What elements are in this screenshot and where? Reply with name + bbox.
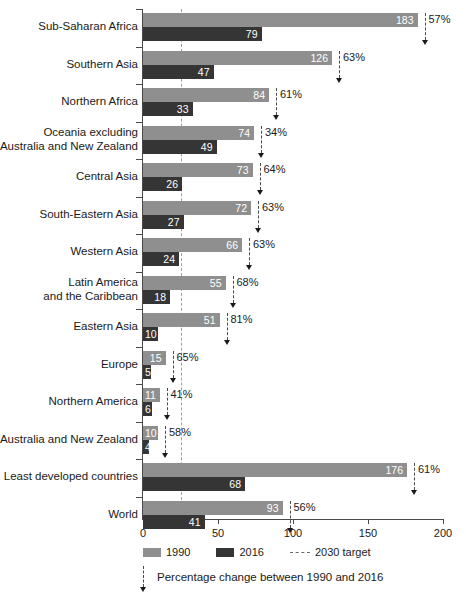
y-axis-tick <box>136 272 142 273</box>
percent-change-label: 63% <box>262 201 284 213</box>
bar-value-label: 72 <box>235 201 247 215</box>
percent-change-label: 56% <box>294 501 316 513</box>
y-axis-tick <box>136 459 142 460</box>
percent-change-marker <box>167 388 168 415</box>
bar-value-label: 176 <box>385 463 403 477</box>
bar-1990: 84 <box>143 88 269 102</box>
plot-area: 050100150200 Sub-Saharan Africa1837957%S… <box>0 0 466 520</box>
bar-value-label: 74 <box>238 126 250 140</box>
legend-label-2016: 2016 <box>239 546 263 558</box>
chart-row: Latin America and the Caribbean551868% <box>0 275 466 313</box>
bar-2016: 49 <box>143 140 217 154</box>
percent-change-label: 58% <box>169 426 191 438</box>
percent-change-arrow-icon <box>287 528 293 533</box>
percent-change-label: 63% <box>343 51 365 63</box>
bar-1990: 66 <box>143 238 242 252</box>
category-label: Western Asia <box>0 244 138 258</box>
percent-change-arrow-icon <box>258 153 264 158</box>
percent-change-marker <box>258 201 259 228</box>
bar-value-label: 4 <box>145 440 151 454</box>
category-label: Latin America and the Caribbean <box>0 275 138 303</box>
category-label: Australia and New Zealand <box>0 432 138 446</box>
percent-change-marker <box>260 163 261 190</box>
bar-value-label: 183 <box>396 13 414 27</box>
percent-change-marker <box>339 51 340 78</box>
bar-value-label: 15 <box>150 351 162 365</box>
category-label: South-Eastern Asia <box>0 207 138 221</box>
chart-row: Western Asia662463% <box>0 237 466 275</box>
bar-value-label: 49 <box>201 140 213 154</box>
bar-2016: 33 <box>143 102 193 116</box>
chart-row: Southern Asia1264763% <box>0 50 466 88</box>
bar-1990: 93 <box>143 501 283 515</box>
bar-value-label: 84 <box>253 88 265 102</box>
legend-label-1990: 1990 <box>166 546 190 558</box>
y-axis-tick <box>136 84 142 85</box>
y-axis-tick <box>136 422 142 423</box>
bar-value-label: 10 <box>145 327 157 341</box>
bar-value-label: 51 <box>204 313 216 327</box>
bar-2016: 18 <box>143 290 170 304</box>
bar-2016: 41 <box>143 515 205 529</box>
category-label: Northern America <box>0 394 138 408</box>
legend-item-1990: 1990 <box>143 546 190 558</box>
legend-swatch-2016 <box>216 548 234 557</box>
bar-2016: 79 <box>143 27 262 41</box>
bar-value-label: 27 <box>168 215 180 229</box>
bar-1990: 126 <box>143 51 332 65</box>
percent-change-label: 65% <box>177 351 199 363</box>
footnote-dashed-marker <box>143 566 144 587</box>
bar-value-label: 66 <box>226 238 238 252</box>
percent-change-arrow-icon <box>257 190 263 195</box>
bar-value-label: 6 <box>145 402 151 416</box>
y-axis-tick <box>136 384 142 385</box>
percent-change-marker <box>165 426 166 453</box>
percent-change-label: 61% <box>418 463 440 475</box>
bar-1990: 74 <box>143 126 254 140</box>
percent-change-arrow-icon <box>255 228 261 233</box>
bar-value-label: 33 <box>177 102 189 116</box>
legend-swatch-1990 <box>143 548 161 557</box>
y-axis-tick <box>136 309 142 310</box>
bar-value-label: 18 <box>154 290 166 304</box>
bar-1990: 72 <box>143 201 251 215</box>
footnote-label: Percentage change between 1990 and 2016 <box>157 571 383 583</box>
percent-change-marker <box>414 463 415 490</box>
bar-value-label: 93 <box>267 501 279 515</box>
bar-2016: 5 <box>143 365 151 379</box>
bar-value-label: 79 <box>246 27 258 41</box>
bar-1990: 15 <box>143 351 166 365</box>
bar-2016: 4 <box>143 440 149 454</box>
y-axis-tick <box>136 47 142 48</box>
chart-row: Central Asia732664% <box>0 162 466 200</box>
legend-label-2030-target: 2030 target <box>315 546 371 558</box>
category-label: Europe <box>0 357 138 371</box>
bar-1990: 55 <box>143 276 226 290</box>
bar-2016: 26 <box>143 177 182 191</box>
percent-change-arrow-icon <box>170 378 176 383</box>
category-label: Eastern Asia <box>0 319 138 333</box>
percent-change-arrow-icon <box>246 265 252 270</box>
percent-change-label: 63% <box>253 238 275 250</box>
y-axis-tick <box>136 9 142 10</box>
y-axis-tick <box>136 347 142 348</box>
bar-2016: 27 <box>143 215 184 229</box>
chart-row: Australia and New Zealand10458% <box>0 425 466 463</box>
bar-value-label: 5 <box>145 365 151 379</box>
legend-item-2030-target: 2030 target <box>290 546 371 558</box>
percent-change-marker <box>227 313 228 340</box>
bar-2016: 6 <box>143 402 152 416</box>
percent-change-arrow-icon <box>411 490 417 495</box>
bar-value-label: 26 <box>166 177 178 191</box>
y-axis-tick <box>136 234 142 235</box>
percent-change-label: 68% <box>237 276 259 288</box>
percent-change-marker <box>233 276 234 303</box>
bar-2016: 24 <box>143 252 179 266</box>
percent-change-marker <box>425 13 426 40</box>
bar-1990: 10 <box>143 426 158 440</box>
y-axis-tick <box>136 197 142 198</box>
bar-value-label: 41 <box>189 515 201 529</box>
legend-item-2016: 2016 <box>216 546 263 558</box>
chart-row: World934156% <box>0 500 466 538</box>
bar-value-label: 68 <box>229 477 241 491</box>
